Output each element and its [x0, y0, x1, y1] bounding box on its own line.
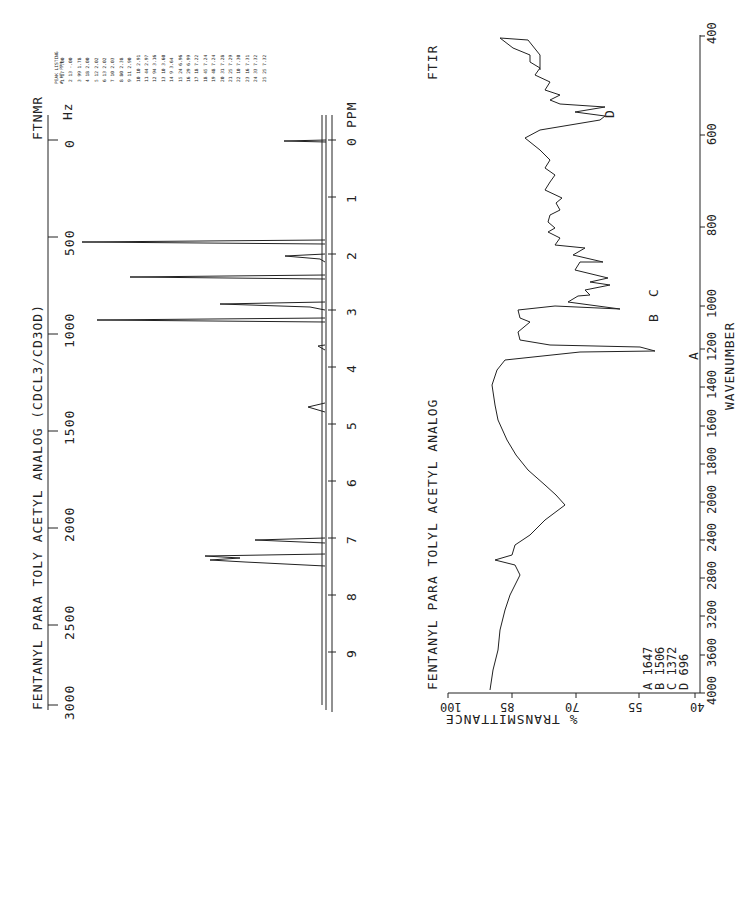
peak-listing-row: 22 10 7.30 [236, 55, 241, 82]
ftir-tag: FTIR [425, 45, 440, 80]
nmr-spectrum [82, 115, 326, 710]
spectra-graphics [0, 0, 753, 903]
peak-listing-row: 6 13 2.02 [102, 58, 107, 82]
peak-listing-row: 3 99 1.78 [77, 58, 82, 82]
nmr-tag: FTNMR [30, 96, 45, 140]
ftir-spectrum [490, 38, 655, 690]
peak-listing-row: 10 10 2.91 [136, 55, 141, 82]
peak-listing-row: 23 16 7.31 [245, 55, 250, 82]
ftir-axes [448, 35, 705, 698]
peak-listing-row: 7 10 2.03 [110, 58, 115, 82]
peak-listing-row: 14 9 3.64 [169, 58, 174, 82]
nmr-hz-unit: Hz [60, 102, 75, 120]
peak-listing-row: 17 18 7.22 [194, 55, 199, 82]
peak-listing-row: 11 44 2.97 [144, 55, 149, 82]
ftir-xlabel: WAVENUMBER [722, 322, 737, 410]
peak-listing-row: 5 12 2.02 [94, 58, 99, 82]
peak-listing-row: 13 10 3.60 [161, 55, 166, 82]
peak-marker-a: A [686, 351, 701, 360]
ftir-title: FENTANYL PARA TOLYL ACETYL ANALOG [425, 399, 440, 690]
nmr-ppm-unit: PPM [344, 102, 359, 128]
peak-listing-row: 2 13 -.00 [68, 58, 73, 82]
peak-listing-row: 9 11 2.90 [127, 58, 132, 82]
peak-marker-b: B [646, 313, 661, 322]
peak-marker-d: D [602, 109, 617, 118]
peak-listing-rows: 1 17 -.002 13 -.003 99 1.784 18 2.005 12… [60, 40, 275, 82]
peak-listing-row: 20 31 7.28 [220, 55, 225, 82]
nmr-title: FENTANYL PARA TOLY ACETYL ANALOG (CDCL3/… [30, 304, 45, 710]
peak-listing-row: 19 48 7.24 [211, 55, 216, 82]
peak-marker-c: C [646, 288, 661, 297]
peak-listing-row: 24 33 7.32 [253, 55, 258, 82]
peak-listing-row: 4 18 2.00 [85, 58, 90, 82]
peak-listing-row: 12 94 3.16 [152, 55, 157, 82]
peak-listing-row: 18 45 7.24 [203, 55, 208, 82]
peak-listing-row: 8 80 2.38 [119, 58, 124, 82]
ftir-ylabel: % TRANSMITTANCE [445, 712, 577, 727]
peak-listing-row: 15 24 6.96 [178, 55, 183, 82]
peak-listing-row: 16 29 6.99 [186, 55, 191, 82]
peak-listing-row: 25 25 7.32 [262, 55, 267, 82]
nmr-ppm-axis [328, 115, 336, 712]
peak-listing-row: 1 17 -.00 [60, 58, 65, 82]
nmr-hz-axis [48, 115, 58, 710]
peak-listing-row: 21 25 7.29 [228, 55, 233, 82]
